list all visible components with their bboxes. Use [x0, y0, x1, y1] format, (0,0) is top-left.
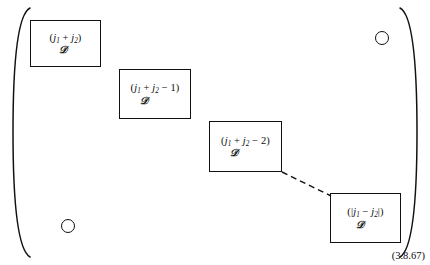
left-parenthesis-icon: [13, 8, 30, 257]
block-4-content: (|j1 − j2|) 𝒟: [347, 206, 383, 230]
block-2-label: (j1 + j2 − 1): [131, 82, 180, 95]
right-parenthesis-icon: [400, 8, 417, 257]
block-3-content: (j1 + j2 − 2) 𝒟: [221, 135, 270, 159]
block-3-label: (j1 + j2 − 2): [221, 135, 270, 148]
dashed-connector: [282, 172, 331, 196]
block-4-script-d-icon: 𝒟: [356, 219, 364, 230]
ellipsis-dot-bottom-left: [61, 219, 75, 233]
block-3-script-d-icon: 𝒟: [230, 147, 238, 158]
block-1-content: (j1 + j2) 𝒟: [50, 32, 82, 56]
block-1-label: (j1 + j2): [50, 32, 82, 45]
matrix-figure: (j1 + j2) 𝒟 (j1 + j2 − 1) 𝒟 (j1 + j2 − 2…: [0, 0, 430, 265]
block-2-script-d-icon: 𝒟: [140, 95, 148, 106]
matrix-block-3: (j1 + j2 − 2) 𝒟: [209, 121, 282, 172]
equation-number: (3.8.67): [392, 250, 425, 261]
ellipsis-dot-top-right: [375, 31, 389, 45]
block-2-content: (j1 + j2 − 1) 𝒟: [131, 82, 180, 106]
block-4-label: (|j1 − j2|): [347, 206, 383, 219]
block-1-script-d-icon: 𝒟: [59, 44, 67, 55]
matrix-block-4: (|j1 − j2|) 𝒟: [330, 193, 401, 243]
matrix-block-2: (j1 + j2 − 1) 𝒟: [119, 69, 191, 119]
matrix-block-1: (j1 + j2) 𝒟: [30, 20, 101, 67]
